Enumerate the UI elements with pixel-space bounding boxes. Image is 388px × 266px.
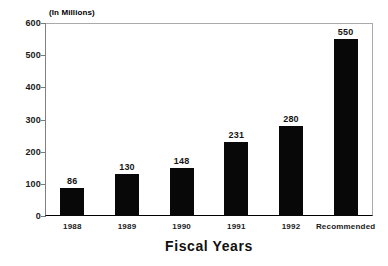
y-axis-tick-mark [41, 120, 46, 121]
y-axis-tick-label: 0 [11, 211, 41, 221]
y-axis-tick-label: 100 [11, 179, 41, 189]
y-axis-tick-label: 400 [11, 82, 41, 92]
y-axis-tick-mark [41, 216, 46, 217]
bar-value-label: 86 [48, 176, 96, 186]
bar [115, 174, 139, 216]
y-axis-tick-label: 300 [11, 115, 41, 125]
x-axis-tick-label: Recommended [311, 222, 381, 231]
y-axis-tick-mark [41, 87, 46, 88]
y-axis-tick-mark [41, 184, 46, 185]
bar-value-label: 130 [103, 162, 151, 172]
y-axis-tick-label: 200 [11, 147, 41, 157]
y-axis-tick-mark [41, 152, 46, 153]
bar-chart: (In Millions) 6005004003002001000 861301… [0, 0, 388, 266]
bar [334, 39, 358, 216]
y-axis-tick-label: 600 [11, 18, 41, 28]
bar [224, 142, 248, 216]
y-axis: 6005004003002001000 [0, 0, 41, 266]
y-axis-tick-mark [41, 23, 46, 24]
bar-value-label: 550 [322, 27, 370, 37]
bar [279, 126, 303, 216]
bar-value-label: 280 [267, 114, 315, 124]
bar [170, 168, 194, 216]
chart-unit-note: (In Millions) [49, 8, 95, 17]
bar-value-label: 231 [212, 130, 260, 140]
y-axis-tick-mark [41, 55, 46, 56]
bar-value-label: 148 [158, 156, 206, 166]
x-axis-title: Fiscal Years [45, 238, 373, 254]
bar [60, 188, 84, 216]
bars-layer: 86130148231280550 [45, 23, 373, 216]
y-axis-tick-label: 500 [11, 50, 41, 60]
